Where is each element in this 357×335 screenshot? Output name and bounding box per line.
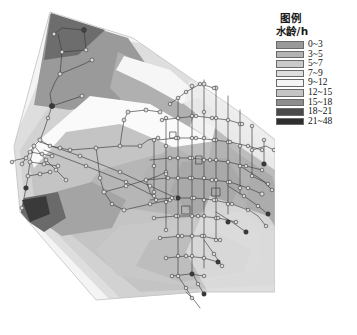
legend-subtitle: 水龄/h <box>276 25 356 37</box>
legend-item: 21~48 <box>276 117 356 127</box>
legend-swatch <box>276 70 304 78</box>
legend-swatch <box>276 51 304 59</box>
legend-swatch <box>276 118 304 126</box>
legend-swatch <box>276 60 304 68</box>
legend-swatch <box>276 89 304 97</box>
legend-item-label: 21~48 <box>308 117 332 127</box>
legend-panel: 图例 水龄/h 0~3 3~5 5~7 7~9 9~12 12~15 15~1 <box>276 12 356 126</box>
legend-title: 图例 <box>280 12 356 24</box>
legend-swatch <box>276 79 304 87</box>
map-svg <box>0 0 275 312</box>
legend-swatch <box>276 108 304 116</box>
legend-swatch <box>276 41 304 49</box>
legend-swatch <box>276 99 304 107</box>
water-age-contour-map <box>0 0 275 310</box>
figure-canvas: 图例 水龄/h 0~3 3~5 5~7 7~9 9~12 12~15 15~1 <box>0 0 357 335</box>
